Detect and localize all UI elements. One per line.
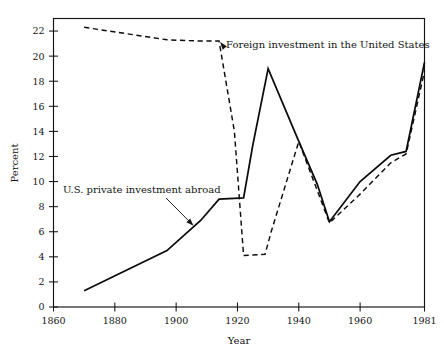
- chart-background: [0, 0, 444, 355]
- x-tick-label: 1960: [348, 315, 372, 326]
- x-axis-title: Year: [227, 335, 251, 346]
- y-tick-label: 22: [32, 25, 44, 36]
- annotation-label-us-private: U.S. private investment abroad: [63, 184, 221, 195]
- x-tick-label: 1900: [164, 315, 188, 326]
- annotation-foreign-investment: Foreign investment in the United States: [220, 39, 430, 50]
- x-tick-label: 1940: [287, 315, 311, 326]
- x-tick-label: 1920: [225, 315, 249, 326]
- y-tick-label: 18: [32, 76, 44, 87]
- y-tick-label: 6: [38, 226, 44, 237]
- chart-figure: 0246810121416182022 18601880190019201940…: [0, 0, 444, 355]
- y-axis-title: Percent: [9, 144, 20, 183]
- x-tick-label: 1880: [103, 315, 127, 326]
- y-tick-label: 10: [32, 176, 44, 187]
- y-tick-label: 16: [32, 101, 44, 112]
- y-tick-label: 0: [38, 301, 44, 312]
- y-tick-label: 2: [38, 276, 44, 287]
- y-tick-label: 4: [38, 251, 44, 262]
- x-tick-label: 1981: [412, 315, 436, 326]
- y-tick-label: 8: [38, 201, 44, 212]
- annotation-label-foreign: Foreign investment in the United States: [226, 39, 430, 50]
- y-tick-label: 14: [32, 126, 44, 137]
- y-tick-label: 12: [32, 151, 44, 162]
- line-chart: 0246810121416182022 18601880190019201940…: [0, 0, 444, 355]
- x-tick-label: 1860: [41, 315, 65, 326]
- y-tick-label: 20: [32, 51, 44, 62]
